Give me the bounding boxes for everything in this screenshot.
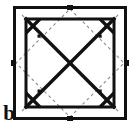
dot-bottom-right-pentagon — [99, 90, 102, 93]
diagram-canvas — [0, 0, 137, 135]
dot-center-diamond — [69, 62, 72, 65]
panel-label-b: b — [1, 101, 17, 125]
dot-top-right-pentagon — [99, 35, 102, 38]
tick-top — [67, 5, 73, 10]
tick-right — [124, 60, 129, 66]
dot-top-left-pentagon — [38, 35, 41, 38]
tick-bottom — [67, 116, 73, 121]
figure-panel: b — [0, 0, 137, 135]
dot-bottom-left-pentagon — [38, 90, 41, 93]
tick-left — [11, 60, 16, 66]
